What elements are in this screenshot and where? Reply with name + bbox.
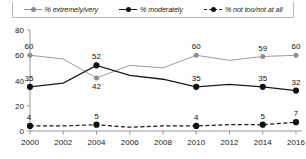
legend-label-moderately: % moderately — [140, 5, 183, 14]
svg-text:42: 42 — [92, 82, 101, 91]
legend-label-extremely-very: % extremely/very — [45, 5, 99, 14]
svg-text:32: 32 — [292, 78, 301, 87]
svg-text:59: 59 — [258, 44, 267, 53]
plot-area: 0204060802000200220042006200820102012201… — [0, 20, 306, 159]
svg-text:2000: 2000 — [21, 138, 39, 147]
svg-text:2014: 2014 — [254, 138, 272, 147]
svg-text:35: 35 — [25, 74, 34, 83]
svg-text:2004: 2004 — [88, 138, 106, 147]
svg-text:35: 35 — [258, 74, 267, 83]
svg-text:60: 60 — [292, 42, 301, 51]
svg-text:2016: 2016 — [287, 138, 305, 147]
legend-label-not-too-not-at-all: % not too/not at all — [225, 5, 283, 14]
svg-text:0: 0 — [20, 127, 25, 136]
legend-item-moderately: % moderately — [119, 5, 183, 14]
legend-item-not-too-not-at-all: % not too/not at all — [204, 5, 283, 14]
legend-marker-moderately-icon — [119, 6, 137, 14]
svg-text:60: 60 — [192, 42, 201, 51]
svg-text:2002: 2002 — [54, 138, 72, 147]
svg-text:60: 60 — [25, 42, 34, 51]
legend-marker-not-too-icon — [204, 6, 222, 14]
svg-text:4: 4 — [194, 113, 199, 122]
svg-text:7: 7 — [294, 109, 299, 118]
svg-text:52: 52 — [92, 52, 101, 61]
svg-text:5: 5 — [261, 112, 266, 121]
svg-text:2006: 2006 — [121, 138, 139, 147]
svg-text:60: 60 — [15, 51, 24, 60]
legend-item-extremely-very: % extremely/very — [24, 5, 99, 14]
chart-screenshot: % extremely/very % moderately % not too/… — [0, 0, 306, 159]
line-chart: 0204060802000200220042006200820102012201… — [0, 20, 306, 159]
svg-text:2008: 2008 — [154, 138, 172, 147]
chart-legend: % extremely/very % moderately % not too/… — [12, 2, 294, 18]
svg-text:2012: 2012 — [221, 138, 239, 147]
svg-text:4: 4 — [27, 113, 32, 122]
svg-text:80: 80 — [15, 26, 24, 35]
svg-text:20: 20 — [15, 102, 24, 111]
svg-text:2010: 2010 — [187, 138, 205, 147]
svg-text:35: 35 — [192, 74, 201, 83]
legend-marker-extremely-very-icon — [24, 6, 42, 14]
svg-text:5: 5 — [94, 112, 99, 121]
svg-text:40: 40 — [15, 77, 24, 86]
